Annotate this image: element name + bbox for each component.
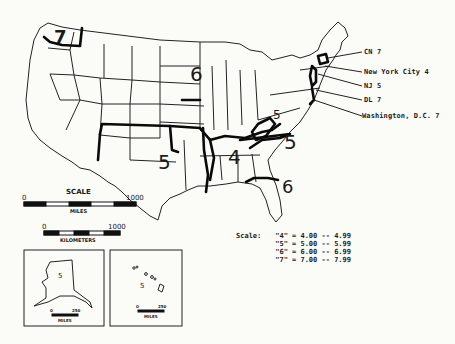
callout-nj: NJ 5 [364, 82, 381, 90]
hawaii-scale-end: 250 [158, 304, 166, 309]
region-label-carolinas: 5 [284, 130, 297, 154]
boundary-kansas [170, 126, 178, 152]
miles-end: 1000 [126, 194, 144, 202]
legend-row: Scale: "4" = 4.00 -- 4.99 [236, 232, 351, 240]
km-end: 1000 [108, 223, 126, 231]
legend-row: "6" = 6.00 -- 6.99 [236, 248, 351, 256]
callout-dl: DL 7 [364, 96, 381, 104]
hawaii-value: 5 [140, 282, 145, 290]
miles-start: 0 [22, 194, 26, 202]
region-label-florida: 6 [282, 176, 294, 197]
legend-key: "5" [266, 240, 288, 248]
boundary-dl [310, 88, 314, 104]
region-label-south-central: 5 [158, 150, 171, 174]
legend-row: "5" = 5.00 -- 5.99 [236, 240, 351, 248]
region-label-west-virginia: 5 [273, 108, 281, 122]
boundary-west-south [98, 134, 100, 160]
boundary-nj [310, 66, 316, 86]
alaska-outline [34, 260, 92, 308]
boundary-cn [318, 54, 328, 64]
callout-cn: CN 7 [364, 48, 381, 56]
legend-row: "7" = 7.00 -- 7.99 [236, 256, 351, 264]
legend: Scale: "4" = 4.00 -- 4.99 "5" = 5.00 -- … [236, 232, 351, 264]
legend-key: "7" [266, 256, 288, 264]
legend-title: Scale: [236, 232, 266, 240]
alaska-scale-end: 250 [72, 308, 80, 313]
miles-unit: MILES [70, 208, 87, 214]
hawaii-scale-unit: MILES [144, 314, 158, 319]
legend-range: = 6.00 -- 6.99 [292, 248, 351, 256]
alaska-value: 5 [58, 272, 63, 280]
boundary-florida [246, 178, 278, 182]
km-start: 0 [42, 223, 46, 231]
region-label-deep-south: 4 [228, 145, 241, 169]
legend-key: "6" [266, 248, 288, 256]
callout-dc: Washington, D.C. 7 [362, 112, 440, 120]
region-label-upper-midwest: 6 [190, 62, 203, 86]
legend-key: "4" [266, 232, 288, 240]
alaska-scale-unit: MILES [58, 318, 72, 323]
legend-range: = 7.00 -- 7.99 [292, 256, 351, 264]
hawaii-scale-start: 0 [136, 304, 139, 309]
legend-range: = 5.00 -- 5.99 [292, 240, 351, 248]
alaska-scale-start: 0 [50, 308, 53, 313]
scale-title: SCALE [66, 188, 91, 196]
legend-range: = 4.00 -- 4.99 [292, 232, 351, 240]
hawaii-outline [158, 284, 164, 292]
callout-nyc: New York City 4 [364, 68, 429, 76]
region-label-washington: 7 [54, 26, 67, 47]
us-map [0, 0, 455, 344]
km-unit: KILOMETERS [60, 237, 96, 243]
boundary-southeast [210, 140, 214, 180]
